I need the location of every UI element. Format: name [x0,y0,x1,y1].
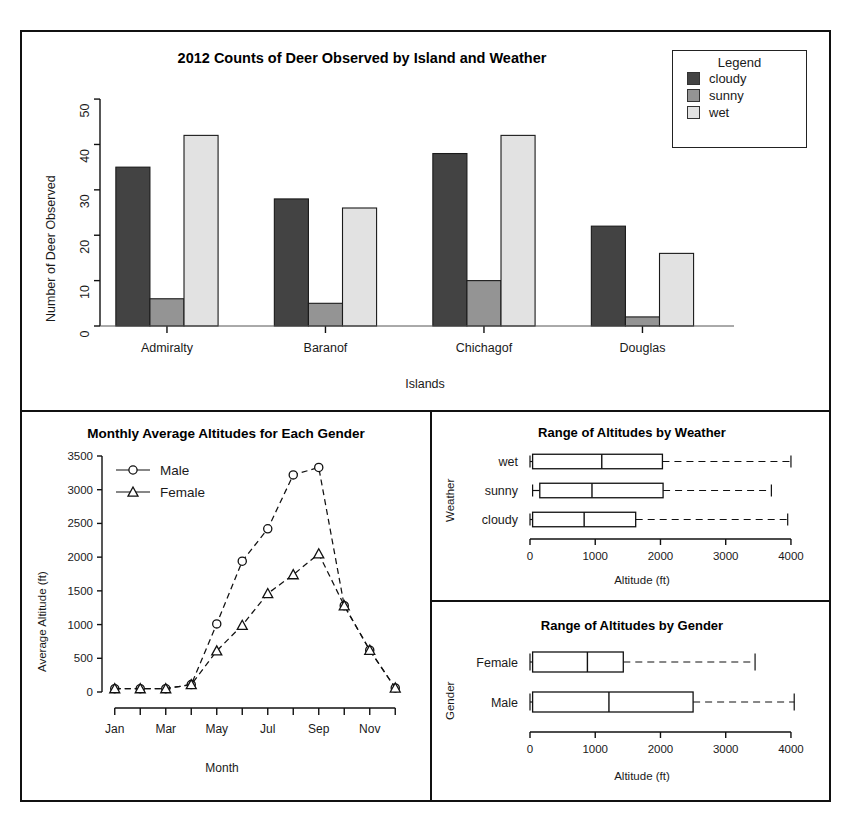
boxplot-weather-ylabel: Weather [444,479,456,522]
bar-baranof-sunny [308,303,342,326]
box-category-label-Female: Female [476,656,518,670]
line-y-tick-label: 3000 [67,484,93,496]
legend-item-wet: wet [673,104,806,121]
box-x-tick-label: 4000 [778,550,804,562]
line-y-tick-label: 3500 [67,450,93,462]
figure-frame: 2012 Counts of Deer Observed by Island a… [20,30,831,802]
bar-chart-title: 2012 Counts of Deer Observed by Island a… [102,50,622,66]
bar-y-tick-label: 10 [78,285,92,299]
bar-chart-xlabel: Islands [305,377,545,391]
legend-swatch-sunny [687,89,700,102]
boxplot-gender-xlabel: Altitude (ft) [552,770,732,782]
box-x-tick-label: 3000 [713,743,739,755]
box-category-label-wet: wet [498,455,519,469]
legend-swatch-wet [687,106,700,119]
bar-chichagof-cloudy [433,154,467,326]
line-point-Female-Sep [314,549,324,558]
boxplot-weather-title: Range of Altitudes by Weather [452,425,812,440]
box-rect-Male [533,692,693,712]
line-x-tick-label: Jan [105,722,124,736]
box-x-tick-label: 1000 [582,743,608,755]
bar-y-tick-label: 50 [78,104,92,118]
bar-x-tick-label: Admiralty [141,341,194,355]
line-legend-marker-Male [129,466,137,474]
line-point-Male-May [213,620,221,628]
legend-item-cloudy: cloudy [673,70,806,87]
bar-douglas-cloudy [591,226,625,326]
line-x-tick-label: May [205,722,228,736]
legend-label-wet: wet [709,105,729,120]
line-point-Male-Jul [264,525,272,533]
box-x-tick-label: 2000 [648,743,674,755]
box-x-tick-label: 0 [527,550,533,562]
line-chart-title: Monthly Average Altitudes for Each Gende… [36,426,416,441]
line-y-tick-label: 2500 [67,517,93,529]
line-y-tick-label: 500 [74,652,93,664]
bar-chart-plot: 01020304050AdmiraltyBaranofChichagofDoug… [62,84,742,374]
line-x-tick-label: Nov [359,722,380,736]
legend-label-cloudy: cloudy [709,71,747,86]
line-series-Male [115,467,396,688]
box-category-label-cloudy: cloudy [482,513,519,527]
line-x-tick-label: Sep [308,722,330,736]
boxplot-gender-plot: 01000200030004000FemaleMale [458,640,818,766]
box-rect-sunny [540,483,663,498]
line-point-Female-Jul [263,589,273,598]
boxplot-gender-title: Range of Altitudes by Gender [452,618,812,633]
bar-chichagof-sunny [467,281,501,326]
bar-douglas-wet [660,253,694,326]
bar-baranof-wet [343,208,377,326]
line-chart-panel: Monthly Average Altitudes for Each Gende… [22,412,430,802]
bar-x-tick-label: Chichagof [456,341,513,355]
bar-chart-legend: Legend cloudysunnywet [672,50,807,148]
line-x-tick-label: Jul [260,722,275,736]
figure-root: 2012 Counts of Deer Observed by Island a… [0,0,851,824]
legend-swatch-cloudy [687,72,700,85]
box-x-tick-label: 2000 [648,550,674,562]
line-y-tick-label: 0 [87,686,93,698]
boxplot-gender-ylabel: Gender [444,682,456,720]
bar-douglas-sunny [625,317,659,326]
bar-x-tick-label: Baranof [304,341,348,355]
bar-admiralty-wet [184,135,218,326]
bar-baranof-cloudy [274,199,308,326]
line-legend-label-Male: Male [160,463,189,478]
legend-items: cloudysunnywet [673,70,806,121]
legend-item-sunny: sunny [673,87,806,104]
box-x-tick-label: 0 [527,743,533,755]
line-point-Male-Sep [315,463,323,471]
line-legend-label-Female: Female [160,485,205,500]
box-category-label-Male: Male [491,696,518,710]
bar-admiralty-cloudy [116,167,150,326]
line-y-tick-label: 1000 [67,619,93,631]
bar-chichagof-wet [501,135,535,326]
boxplot-weather-xlabel: Altitude (ft) [552,574,732,586]
line-chart-xlabel: Month [142,761,302,775]
boxplot-gender-panel: Range of Altitudes by Gender Gender Alti… [432,602,829,802]
line-point-Male-Jun [238,557,246,565]
box-rect-Female [533,652,624,672]
line-x-tick-label: Mar [155,722,176,736]
boxplot-weather-panel: Range of Altitudes by Weather Weather Al… [432,412,829,600]
bar-y-tick-label: 0 [78,330,92,337]
legend-label-sunny: sunny [709,88,744,103]
line-chart-ylabel: Average Altitude (ft) [36,571,48,672]
boxplot-weather-plot: 01000200030004000wetsunnycloudy [458,445,818,573]
box-x-tick-label: 4000 [778,743,804,755]
bar-chart-panel: 2012 Counts of Deer Observed by Island a… [22,32,829,410]
line-y-tick-label: 2000 [67,551,93,563]
line-series-Female [115,554,396,689]
box-category-label-sunny: sunny [485,484,519,498]
line-chart-plot: 0500100015002000250030003500JanMarMayJul… [50,448,420,748]
box-x-tick-label: 1000 [582,550,608,562]
box-x-tick-label: 3000 [713,550,739,562]
box-rect-wet [533,454,663,469]
bar-y-tick-label: 30 [78,194,92,208]
line-point-Male-Aug [289,471,297,479]
bar-admiralty-sunny [150,299,184,326]
bar-chart-ylabel: Number of Deer Observed [44,175,58,322]
line-y-tick-label: 1500 [67,585,93,597]
bar-y-tick-label: 40 [78,149,92,163]
legend-title: Legend [673,51,806,70]
bar-y-tick-label: 20 [78,240,92,254]
